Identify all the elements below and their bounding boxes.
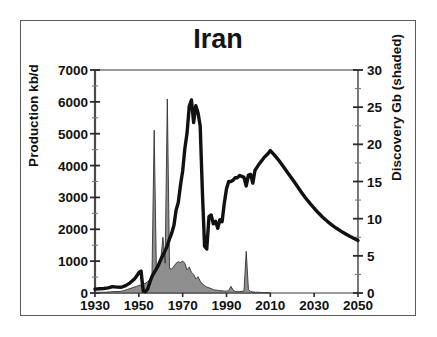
y-tick-label-left: 2000 (20, 222, 88, 237)
y-tick-label-right: 15 (367, 174, 407, 189)
x-tick-label: 1950 (124, 298, 154, 313)
y-tick-label-right: 10 (367, 211, 407, 226)
axis-lines (95, 70, 358, 293)
x-tick-label: 1970 (168, 298, 198, 313)
x-tick-label: 1990 (211, 298, 241, 313)
y-tick-label-left: 4000 (20, 158, 88, 173)
y-tick-label-left: 1000 (20, 254, 88, 269)
y-tick-label-right: 25 (367, 100, 407, 115)
y-tick-label-left: 0 (20, 286, 88, 301)
minor-ticks (92, 86, 361, 277)
x-tick-label: 2030 (299, 298, 329, 313)
y-tick-label-left: 6000 (20, 94, 88, 109)
y-tick-label-left: 7000 (20, 63, 88, 78)
chart-figure: Iran Production kb/d Discovery Gb (shade… (0, 0, 437, 337)
discovery-area-series (95, 99, 270, 293)
y-tick-label-right: 20 (367, 137, 407, 152)
production-line-path (95, 100, 358, 292)
y-tick-label-right: 30 (367, 63, 407, 78)
discovery-area-path (95, 99, 270, 293)
x-tick-label: 2050 (343, 298, 373, 313)
y-tick-label-left: 3000 (20, 190, 88, 205)
y-tick-label-left: 5000 (20, 126, 88, 141)
production-line-series (95, 100, 358, 292)
x-tick-label: 2010 (255, 298, 285, 313)
y-tick-label-right: 5 (367, 248, 407, 263)
x-tick-label: 1930 (80, 298, 110, 313)
